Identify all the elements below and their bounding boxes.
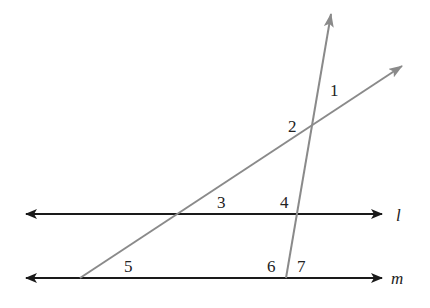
angle-label-1: 1: [330, 81, 339, 100]
angle-label-6: 6: [267, 257, 276, 276]
line-label-m: m: [391, 269, 403, 288]
angle-label-2: 2: [288, 117, 297, 136]
diagram-canvas: 1 2 3 4 5 6 7 l m: [0, 0, 430, 308]
angle-label-3: 3: [217, 193, 226, 212]
angle-label-7: 7: [297, 257, 306, 276]
angle-label-4: 4: [280, 193, 289, 212]
line-label-l: l: [396, 206, 401, 225]
transversal-2: [286, 14, 331, 278]
transversal-1: [80, 66, 402, 278]
angle-label-5: 5: [124, 257, 133, 276]
